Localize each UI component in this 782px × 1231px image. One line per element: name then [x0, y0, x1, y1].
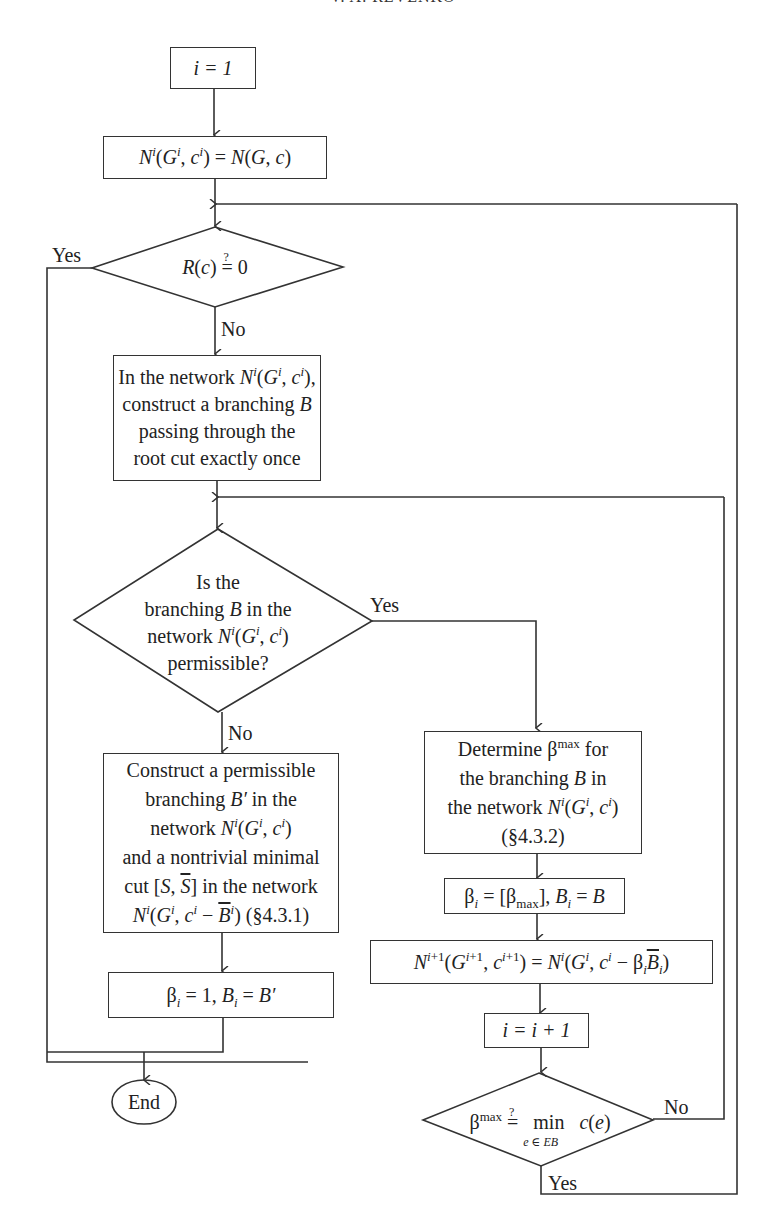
- beta-assign-box: βi = [βmax], Bi = B: [444, 878, 625, 914]
- network-init-text: Ni(Gi, ci) = N(G, c): [139, 144, 291, 171]
- check-beta-max-text: βmax ?= mine ∈ EB c(e): [450, 1102, 630, 1142]
- beta-max-yes-label: Yes: [548, 1172, 577, 1194]
- check-r-no-label: No: [221, 318, 245, 340]
- beta-assign-text: βi = [βmax], Bi = B: [464, 883, 604, 910]
- beta-max-no-label: No: [664, 1096, 688, 1118]
- is-permissible-text: Is the branching B in the network Ni(Gi,…: [118, 565, 318, 680]
- determine-beta-max-text: Determine βmax for the branching B in th…: [448, 735, 619, 851]
- check-r-text: R(c) ?= 0: [155, 252, 275, 282]
- increment-box: i = i + 1: [484, 1013, 589, 1048]
- increment-text: i = i + 1: [502, 1017, 570, 1044]
- construct-permissible-text: Construct a permissible branching B′ in …: [122, 756, 319, 930]
- network-init-box: Ni(Gi, ci) = N(G, c): [103, 136, 327, 179]
- end-terminal: End: [112, 1084, 176, 1120]
- beta-one-box: βi = 1, Bi = B′: [108, 972, 334, 1018]
- network-update-text: Ni+1(Gi+1, ci+1) = Ni(Gi, ci − βiBi): [414, 949, 670, 976]
- construct-permissible-box: Construct a permissible branching B′ in …: [103, 753, 339, 933]
- init-box: i = 1: [170, 47, 256, 89]
- flowchart: V. A. REVENKO: [0, 0, 782, 1231]
- check-r-yes-label: Yes: [52, 244, 81, 266]
- permissible-yes-label: Yes: [370, 594, 399, 616]
- determine-beta-max-box: Determine βmax for the branching B in th…: [424, 731, 642, 854]
- permissible-no-label: No: [228, 722, 252, 744]
- network-update-box: Ni+1(Gi+1, ci+1) = Ni(Gi, ci − βiBi): [370, 940, 713, 984]
- construct-branching-text: In the network Ni(Gi, ci), construct a b…: [118, 364, 316, 472]
- init-text: i = 1: [193, 55, 232, 82]
- beta-one-text: βi = 1, Bi = B′: [167, 982, 276, 1009]
- construct-branching-box: In the network Ni(Gi, ci), construct a b…: [113, 355, 321, 481]
